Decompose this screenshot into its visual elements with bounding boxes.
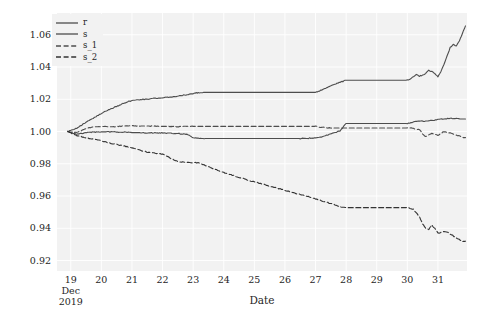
x-tick-label: 23 — [187, 274, 199, 285]
x-tick-day: 19 — [65, 274, 77, 285]
legend-item-s_2: s_2 — [56, 52, 97, 64]
x-tick-label: 30 — [401, 274, 413, 285]
x-tick-label: 31 — [432, 274, 444, 285]
legend-label-s_2: s_2 — [83, 52, 97, 64]
legend-item-s: s — [56, 29, 97, 41]
x-tick-day: 23 — [187, 274, 199, 285]
x-tick-label: 21 — [126, 274, 138, 285]
legend-item-r: r — [56, 17, 97, 29]
x-tick-day: 21 — [126, 274, 138, 285]
x-tick-label: 22 — [157, 274, 169, 285]
x-tick-day: 29 — [371, 274, 383, 285]
x-tick-label: 25 — [248, 274, 260, 285]
x-axis-title: Date — [57, 294, 467, 306]
x-tick-day: 28 — [340, 274, 352, 285]
x-tick-day: 22 — [157, 274, 169, 285]
x-tick-label: 20 — [95, 274, 107, 285]
x-tick-day: 26 — [279, 274, 291, 285]
x-tick-label: 26 — [279, 274, 291, 285]
legend-item-s_1: s_1 — [56, 40, 97, 52]
chart-legend: rss_1s_2 — [52, 14, 103, 66]
x-tick-label: 28 — [340, 274, 352, 285]
legend-label-s_1: s_1 — [83, 40, 97, 52]
x-tick-label: 29 — [371, 274, 383, 285]
x-tick-day: 27 — [309, 274, 321, 285]
legend-swatch-s — [56, 29, 78, 39]
x-tick-label: 24 — [218, 274, 230, 285]
x-tick-day: 30 — [401, 274, 413, 285]
legend-swatch-r — [56, 18, 78, 28]
legend-label-s: s — [83, 29, 87, 41]
legend-swatch-s_2 — [56, 52, 78, 62]
legend-swatch-s_1 — [56, 41, 78, 51]
legend-label-r: r — [83, 17, 87, 29]
x-tick-day: 31 — [432, 274, 444, 285]
x-tick-day: 25 — [248, 274, 260, 285]
x-tick-label: 27 — [309, 274, 321, 285]
x-tick-day: 24 — [218, 274, 230, 285]
chart-figure: 1.061.041.021.000.980.960.940.92 19Dec20… — [0, 0, 487, 325]
x-tick-day: 20 — [95, 274, 107, 285]
